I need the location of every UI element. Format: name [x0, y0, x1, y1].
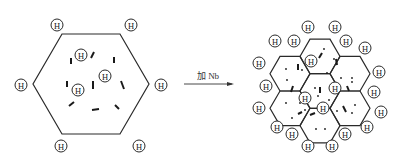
boundary-hydrogen-atom: H — [340, 35, 352, 47]
precipitate-dot — [323, 48, 325, 50]
hydrogen-atom-label: H — [256, 59, 262, 69]
boundary-hydrogen-atom: H — [286, 128, 298, 140]
boundary-hydrogen-atom: H — [361, 121, 373, 133]
hydrogen-atom-label: H — [263, 82, 269, 92]
hydrogen-atom-label: H — [58, 142, 64, 152]
interior-hydrogen-atom: H — [72, 84, 84, 96]
interior-hydrogen-atom: H — [329, 82, 341, 94]
boundary-hydrogen-atom: H — [51, 19, 63, 31]
hydrogen-atom-label: H — [128, 21, 134, 31]
dislocation-segment — [319, 53, 322, 58]
boundary-hydrogen-atom: H — [125, 19, 137, 31]
interior-hydrogen-atom: H — [305, 55, 317, 67]
boundary-hydrogen-atom: H — [373, 66, 385, 78]
boundary-hydrogen-atom: H — [269, 35, 281, 47]
boundary-hydrogen-atom: H — [133, 140, 145, 152]
hydrogen-atom-label: H — [136, 142, 142, 152]
hydrogen-atom-label: H — [342, 130, 348, 140]
process-arrow: 加 Nb — [184, 71, 234, 86]
boundary-hydrogen-atom: H — [288, 35, 300, 47]
interior-hydrogen-atom: H — [99, 70, 111, 82]
dislocation-segment — [69, 102, 74, 106]
dislocation-segment — [121, 81, 124, 89]
precipitate-dot — [317, 95, 319, 97]
boundary-hydrogen-atom: H — [302, 140, 314, 152]
interior-hydrogen-atom: H — [299, 92, 311, 104]
precipitate-dot — [285, 102, 287, 104]
hydrogen-atom-label: H — [371, 88, 377, 98]
precipitate-dot — [333, 58, 335, 60]
hydrogen-atom-label: H — [78, 51, 84, 61]
dislocation-segment — [343, 106, 346, 112]
hydrogen-atom-label: H — [343, 37, 349, 47]
before-grain: HHHHHHHHH — [15, 19, 167, 152]
hydrogen-atom-label: H — [289, 130, 295, 140]
hydrogen-atom-label: H — [308, 57, 314, 67]
hydrogen-atom-label: H — [332, 84, 338, 94]
hydrogen-atom-label: H — [75, 86, 81, 96]
hydrogen-grain-refinement-diagram: HHHHHHHHH 加 Nb HHHHHHHHHHHHHHHHHHHHHH — [0, 0, 400, 166]
boundary-hydrogen-atom: H — [375, 106, 387, 118]
interior-hydrogen-atom: H — [317, 102, 329, 114]
large-grain-boundary — [33, 34, 149, 134]
hydrogen-atom-label: H — [329, 142, 335, 152]
boundary-hydrogen-atom: H — [55, 140, 67, 152]
precipitate-dot — [286, 79, 288, 81]
precipitate-dot — [354, 104, 356, 106]
hydrogen-atom-label: H — [54, 21, 60, 31]
precipitate-dot — [314, 87, 316, 89]
hydrogen-atom-label: H — [376, 68, 382, 78]
hydrogen-atom-label: H — [274, 123, 280, 133]
boundary-hydrogen-atom: H — [253, 57, 265, 69]
boundary-hydrogen-atom: H — [339, 128, 351, 140]
boundary-hydrogen-atom: H — [329, 21, 341, 33]
precipitate-dot — [328, 99, 330, 101]
boundary-hydrogen-atom: H — [15, 79, 27, 91]
dislocation-segment — [92, 109, 99, 110]
boundary-hydrogen-atom: H — [326, 140, 338, 152]
boundary-hydrogen-atom: H — [260, 80, 272, 92]
interior-hydrogen-atom: H — [75, 49, 87, 61]
dislocation-segment — [336, 59, 337, 65]
hydrogen-atom-label: H — [362, 44, 368, 54]
dislocation-segment — [310, 113, 315, 115]
after-grains: HHHHHHHHHHHHHHHHHHHHHH — [253, 21, 387, 152]
precipitate-dot — [340, 77, 342, 79]
dislocation-segment — [347, 86, 349, 91]
precipitate-dot — [301, 69, 303, 71]
hydrogen-atom-label: H — [302, 94, 308, 104]
hydrogen-atom-label: H — [291, 37, 297, 47]
hydrogen-atom-label: H — [158, 81, 164, 91]
arrow-label: 加 Nb — [197, 71, 220, 81]
hydrogen-atom-label: H — [102, 72, 108, 82]
boundary-hydrogen-atom: H — [302, 21, 314, 33]
dislocation-segment — [115, 105, 119, 109]
precipitate-dot — [304, 109, 306, 111]
refined-grain-boundary — [330, 91, 370, 126]
hydrogen-atom-label: H — [332, 23, 338, 33]
boundary-hydrogen-atom: H — [359, 42, 371, 54]
boundary-hydrogen-atom: H — [271, 121, 283, 133]
precipitate-dot — [351, 112, 353, 114]
precipitate-dot — [351, 77, 353, 79]
hydrogen-atom-label: H — [364, 123, 370, 133]
boundary-hydrogen-atom: H — [368, 86, 380, 98]
precipitate-dot — [326, 72, 328, 74]
hydrogen-atom-label: H — [272, 37, 278, 47]
precipitate-dot — [285, 68, 287, 70]
refined-grain-boundary — [270, 56, 310, 91]
hydrogen-atom-label: H — [18, 81, 24, 91]
precipitate-dot — [324, 128, 326, 130]
hydrogen-atom-label: H — [305, 23, 311, 33]
arrow-head-icon — [227, 82, 234, 86]
hydrogen-atom-label: H — [378, 108, 384, 118]
dislocation-segment — [91, 52, 94, 58]
precipitate-dot — [291, 117, 293, 119]
hydrogen-atom-label: H — [305, 142, 311, 152]
precipitate-dot — [315, 128, 317, 130]
hydrogen-atom-label: H — [256, 104, 262, 114]
boundary-hydrogen-atom: H — [253, 102, 265, 114]
precipitate-dot — [336, 110, 338, 112]
precipitate-dot — [351, 81, 353, 83]
hydrogen-atom-label: H — [320, 104, 326, 114]
